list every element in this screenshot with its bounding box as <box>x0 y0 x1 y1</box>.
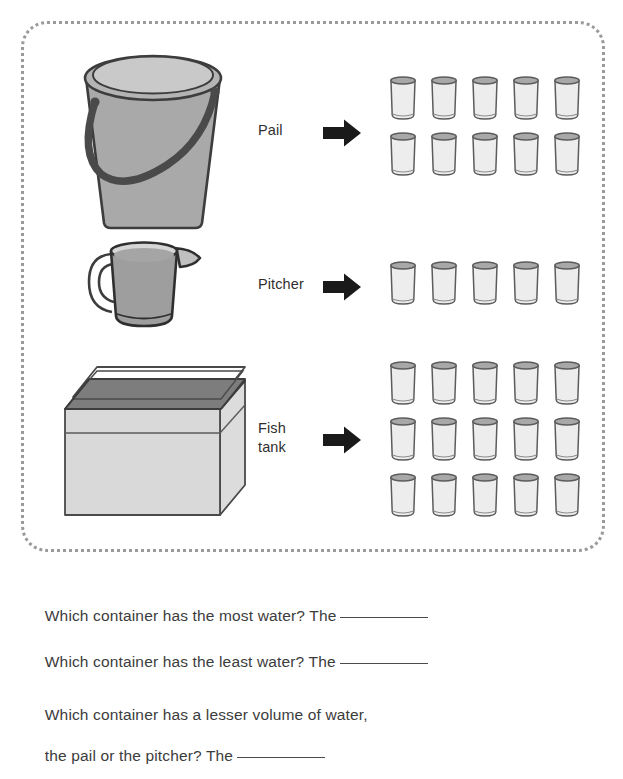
glass-grid-pail <box>388 74 593 186</box>
glass-icon <box>511 471 541 519</box>
question-2-answer-blank[interactable] <box>340 663 428 664</box>
row-label-pitcher-text: Pitcher <box>258 276 304 292</box>
fish-tank-illustration <box>45 355 255 530</box>
glass-icon <box>552 74 582 122</box>
glass-icon <box>511 130 541 178</box>
glass-icon <box>511 359 541 407</box>
glass-icon <box>552 130 582 178</box>
glass-icon <box>388 130 418 178</box>
glass-icon <box>388 471 418 519</box>
glass-icon <box>552 415 582 463</box>
glass-icon <box>511 74 541 122</box>
glass-icon <box>388 74 418 122</box>
question-2: Which container has the least water? The <box>27 632 428 692</box>
glass-icon <box>388 415 418 463</box>
glass-icon <box>388 359 418 407</box>
question-3-text-line2: the pail or the pitcher? The <box>45 747 233 764</box>
glass-icon <box>429 130 459 178</box>
row-label-pitcher: Pitcher <box>258 275 304 294</box>
glass-grid-pitcher <box>388 259 593 315</box>
glass-icon <box>552 359 582 407</box>
row-pitcher <box>82 234 207 339</box>
right-arrow-icon-pail <box>322 118 362 148</box>
row-label-fish-tank-line1: Fish <box>258 419 286 438</box>
glass-icon <box>429 471 459 519</box>
row-pail <box>55 45 235 230</box>
glass-icon <box>429 74 459 122</box>
right-arrow-icon-pitcher <box>322 272 362 302</box>
glass-icon <box>470 130 500 178</box>
question-2-text: Which container has the least water? The <box>45 653 336 670</box>
glass-icon <box>511 259 541 307</box>
right-arrow-icon <box>322 118 362 148</box>
glass-icon <box>470 359 500 407</box>
glass-icon <box>552 259 582 307</box>
glass-icon <box>470 471 500 519</box>
glass-icon <box>388 259 418 307</box>
row-label-fish-tank-line2: tank <box>258 438 286 457</box>
right-arrow-icon <box>322 425 362 455</box>
glass-icon <box>429 359 459 407</box>
glass-icon <box>470 74 500 122</box>
glass-icon <box>429 415 459 463</box>
pail-illustration <box>55 45 235 230</box>
question-3-line2: the pail or the pitcher? The <box>27 726 325 779</box>
row-fish-tank <box>45 355 255 530</box>
row-label-pail: Pail <box>258 121 283 140</box>
question-1-text: Which container has the most water? The <box>45 607 337 624</box>
glass-grid-fish-tank <box>388 359 593 527</box>
question-3-answer-blank[interactable] <box>237 757 325 758</box>
glass-icon <box>552 471 582 519</box>
question-1-answer-blank[interactable] <box>340 617 428 618</box>
glass-icon <box>470 259 500 307</box>
right-arrow-icon-fish-tank <box>322 425 362 455</box>
row-label-fish-tank: Fish tank <box>258 419 286 457</box>
pitcher-illustration <box>82 234 207 339</box>
right-arrow-icon <box>322 272 362 302</box>
glass-icon <box>511 415 541 463</box>
glass-icon <box>470 415 500 463</box>
question-3-text-line1: Which container has a lesser volume of w… <box>45 706 368 723</box>
glass-icon <box>429 259 459 307</box>
row-label-pail-text: Pail <box>258 122 283 138</box>
